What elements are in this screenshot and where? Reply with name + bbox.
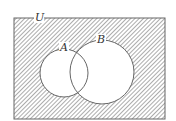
set-b-label: B <box>96 33 105 46</box>
venn-diagram: U A B <box>0 0 176 121</box>
universe-label: U <box>35 11 45 24</box>
set-a-label: A <box>59 41 68 54</box>
